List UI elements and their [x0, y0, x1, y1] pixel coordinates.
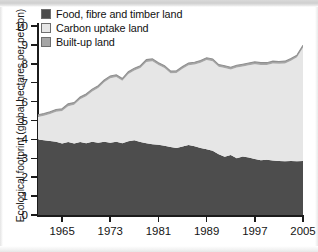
- y-tick-4: [31, 139, 37, 141]
- y-tick-label-3: 3: [6, 152, 28, 164]
- x-tick-1997: [254, 217, 256, 222]
- x-tick-label-1981: 1981: [137, 226, 179, 237]
- legend-label-food-fibre-timber-land: Food, fibre and timber land: [56, 8, 182, 20]
- scan-artifact-right: [315, 7, 318, 246]
- y-tick-8: [31, 63, 37, 65]
- y-tick-10: [31, 25, 37, 27]
- y-tick-label-5: 5: [6, 115, 28, 127]
- legend-item-carbon-uptake-land: Carbon uptake land: [41, 21, 182, 34]
- scan-artifact-bottom: [0, 246, 318, 252]
- y-tick-2: [31, 176, 37, 178]
- x-tick-label-1973: 1973: [89, 226, 131, 237]
- x-tick-2005: [302, 217, 304, 222]
- y-tick-label-4: 4: [6, 133, 28, 145]
- x-tick-label-1997: 1997: [234, 226, 276, 237]
- y-tick-0: [31, 214, 37, 216]
- y-tick-5: [31, 120, 37, 122]
- x-tick-1981: [158, 217, 160, 222]
- x-tick-label-1965: 1965: [41, 226, 83, 237]
- legend-label-built-up-land: Built-up land: [56, 36, 115, 48]
- y-tick-1: [31, 195, 37, 197]
- legend-swatch-built-up-land: [41, 37, 51, 47]
- legend-label-carbon-uptake-land: Carbon uptake land: [56, 22, 148, 34]
- y-tick-label-8: 8: [6, 58, 28, 70]
- x-tick-1973: [109, 217, 111, 222]
- legend-item-food-fibre-timber-land: Food, fibre and timber land: [41, 7, 182, 20]
- plot-area: [38, 26, 303, 215]
- y-tick-label-1: 1: [6, 190, 28, 202]
- x-axis-line: [37, 215, 304, 217]
- y-tick-3: [31, 158, 37, 160]
- y-tick-6: [31, 101, 37, 103]
- chart-figure: Ecological footprint (global hectares pe…: [0, 0, 318, 252]
- x-tick-1965: [61, 217, 63, 222]
- chart-legend: Food, fibre and timber land Carbon uptak…: [41, 7, 182, 48]
- legend-swatch-carbon-uptake-land: [41, 23, 51, 33]
- x-tick-label-2005: 2005: [282, 226, 318, 237]
- x-tick-1989: [206, 217, 208, 222]
- stacked-area-svg: [38, 26, 303, 215]
- y-tick-7: [31, 82, 37, 84]
- x-tick-label-1989: 1989: [186, 226, 228, 237]
- y-tick-label-6: 6: [6, 96, 28, 108]
- scan-artifact-left: [0, 7, 3, 246]
- y-tick-label-7: 7: [6, 77, 28, 89]
- legend-swatch-food-fibre-timber-land: [41, 9, 51, 19]
- legend-item-built-up-land: Built-up land: [41, 35, 182, 48]
- y-tick-label-0: 0: [6, 209, 28, 221]
- y-tick-label-10: 10: [6, 20, 28, 32]
- y-tick-9: [31, 44, 37, 46]
- y-tick-label-2: 2: [6, 171, 28, 183]
- y-tick-label-9: 9: [6, 39, 28, 51]
- scan-artifact-top: [0, 0, 318, 7]
